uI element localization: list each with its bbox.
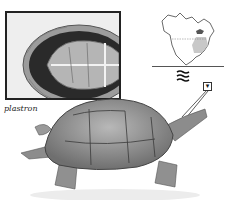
water-waves-icon — [176, 69, 190, 83]
plastron-illustration — [7, 13, 121, 100]
plastron-inset — [5, 11, 121, 100]
turtle-illustration — [15, 95, 210, 200]
map-baseline — [152, 66, 224, 67]
range-map — [152, 5, 232, 69]
